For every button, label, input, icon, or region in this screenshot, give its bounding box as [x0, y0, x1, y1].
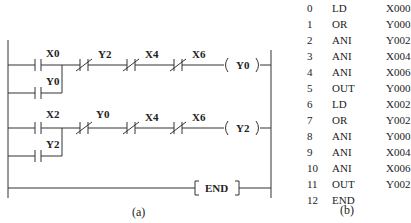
opcode: OR — [332, 16, 347, 32]
end-bracket-right-icon — [235, 181, 239, 195]
contact-label: X0 — [46, 47, 60, 59]
opcode: ANI — [332, 64, 352, 80]
branch-contact-label: Y2 — [46, 138, 60, 150]
operand: X002 — [386, 96, 410, 112]
coil-label: Y0 — [236, 59, 250, 71]
step-number: 12 — [307, 192, 318, 208]
contact-label: Y0 — [96, 108, 110, 120]
opcode: LD — [332, 0, 347, 16]
contact-label: Y2 — [98, 48, 112, 60]
step-number: 0 — [307, 0, 313, 16]
operand: Y002 — [386, 112, 410, 128]
contact-no-icon — [35, 87, 41, 99]
opcode: ANI — [332, 144, 352, 160]
contact-label: X4 — [145, 111, 159, 123]
operand: Y002 — [386, 176, 410, 192]
opcode: OUT — [332, 80, 355, 96]
operand: X000 — [386, 0, 410, 16]
contact-label: X6 — [192, 48, 206, 60]
operand: X004 — [386, 144, 410, 160]
step-number: 4 — [307, 64, 313, 80]
opcode: OR — [332, 112, 347, 128]
end-instruction-label: END — [205, 182, 228, 194]
opcode: ANI — [332, 128, 352, 144]
step-number: 9 — [307, 144, 313, 160]
contact-no-icon — [35, 122, 41, 134]
step-number: 6 — [307, 96, 313, 112]
branch-contact-label: Y0 — [46, 75, 60, 87]
opcode: OUT — [332, 176, 355, 192]
step-number: 8 — [307, 128, 313, 144]
contact-label: X6 — [192, 111, 206, 123]
operand: X004 — [386, 48, 410, 64]
coil-label: Y2 — [236, 122, 250, 134]
contact-label: X2 — [46, 108, 60, 120]
step-number: 1 — [307, 16, 313, 32]
step-number: 5 — [307, 80, 313, 96]
step-number: 11 — [307, 176, 318, 192]
step-number: 3 — [307, 48, 313, 64]
operand: X006 — [386, 160, 410, 176]
step-number: 10 — [307, 160, 318, 176]
end-rung — [8, 181, 271, 195]
end-bracket-left-icon — [195, 181, 199, 195]
step-number: 2 — [307, 32, 313, 48]
opcode: ANI — [332, 32, 352, 48]
opcode: ANI — [332, 160, 352, 176]
caption-b: (b) — [340, 203, 354, 218]
opcode: LD — [332, 96, 347, 112]
ladder-diagram: X0 Y2 X4 X6 Y0 Y0 X2 Y0 X4 X6 Y2 Y2 END … — [0, 0, 290, 223]
operand: Y002 — [386, 32, 410, 48]
operand: Y000 — [386, 128, 410, 144]
caption-a: (a) — [132, 205, 145, 219]
opcode: ANI — [332, 48, 352, 64]
step-number: 7 — [307, 112, 313, 128]
contact-no-icon — [35, 59, 41, 71]
operand: Y000 — [386, 16, 410, 32]
operand: X006 — [386, 64, 410, 80]
operand: Y000 — [386, 80, 410, 96]
contact-no-icon — [35, 150, 41, 162]
contact-label: X4 — [145, 48, 159, 60]
